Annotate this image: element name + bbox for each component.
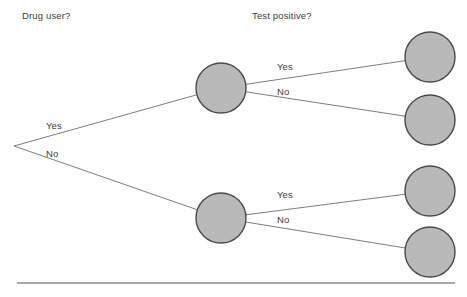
tree-canvas (0, 0, 467, 297)
label-yes-positive: Yes (277, 61, 293, 72)
tree-edge (14, 146, 198, 210)
tree-edge (245, 61, 407, 85)
tree-edge (245, 222, 407, 248)
probability-tree-diagram: Drug user?Test positive? YesNoYesNoYesNo (0, 0, 467, 297)
heading-drug-user: Drug user? (22, 10, 71, 21)
tree-node[interactable] (405, 32, 455, 82)
nodes-group (196, 32, 455, 277)
tree-edge (245, 92, 407, 117)
label-root-yes: Yes (46, 120, 62, 131)
tree-node[interactable] (405, 227, 455, 277)
tree-edge (245, 194, 406, 215)
tree-node[interactable] (196, 193, 246, 243)
tree-node[interactable] (405, 166, 455, 216)
tree-node[interactable] (196, 63, 246, 113)
heading-test-positive: Test positive? (252, 10, 312, 21)
tree-edge (14, 94, 198, 146)
label-yes-negative: No (277, 86, 289, 97)
tree-node[interactable] (405, 95, 455, 145)
label-no-positive: Yes (277, 189, 293, 200)
label-no-negative: No (277, 214, 289, 225)
label-root-no: No (46, 148, 58, 159)
